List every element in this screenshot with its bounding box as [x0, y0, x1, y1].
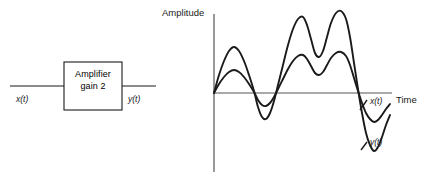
figure-canvas: Amplifier gain 2 x(t) y(t) Amplitude Tim…: [0, 0, 428, 180]
amplifier-label-line1: Amplifier: [75, 69, 111, 79]
waveform-curve-xt: [214, 52, 390, 122]
waveform-curve-yt: [214, 11, 390, 151]
amplifier-box-text: Amplifier gain 2: [64, 62, 122, 98]
input-signal-label: x(t): [16, 95, 28, 104]
amplitude-axis-label: Amplitude: [162, 8, 204, 18]
time-axis-label: Time: [396, 95, 417, 105]
amplifier-label-line2: gain 2: [80, 81, 105, 91]
output-signal-label: y(t): [128, 95, 140, 104]
curve-label-y: y(t): [370, 138, 382, 147]
curve-label-x: x(t): [370, 97, 382, 106]
waveform-plot: [180, 0, 428, 180]
waveform-curves: [214, 11, 390, 151]
y-curve-leader: [361, 142, 367, 150]
